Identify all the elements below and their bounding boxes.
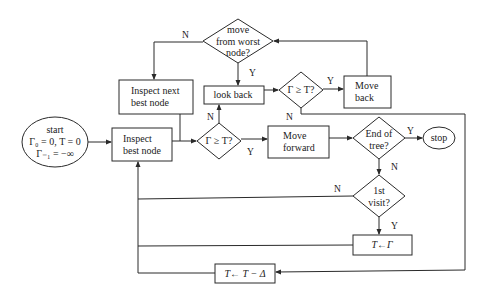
edge-move-back-to-move-from-worst [274, 41, 367, 76]
svg-text:node?: node? [226, 47, 250, 58]
edge-move-from-worst-to-inspect-next [154, 42, 203, 79]
node-inspect-next: Inspect next best node [119, 80, 193, 114]
node-start: start Γ₀ = 0, T = 0 Γ₋₁ = −∞ [22, 117, 88, 167]
svg-text:Move: Move [283, 130, 307, 141]
svg-text:from worst: from worst [216, 36, 260, 47]
svg-text:T←Γ: T←Γ [371, 239, 393, 250]
svg-text:Inspect: Inspect [123, 133, 152, 144]
node-stop: stop [423, 127, 455, 149]
node-move-forward: Move forward [268, 126, 329, 158]
edge-t-gets-gamma-to-inspect-best [138, 245, 353, 246]
node-move-back: Move back [344, 76, 391, 108]
label-check-mid-no: N [207, 112, 214, 122]
label-check-top-yes: Y [327, 76, 334, 86]
node-check-mid: Γ ≥ T? [197, 123, 241, 159]
svg-text:best node: best node [131, 97, 170, 108]
svg-text:forward: forward [283, 142, 315, 153]
label-check-mid-yes: Y [247, 147, 254, 157]
node-check-top: Γ ≥ T? [279, 72, 323, 108]
svg-text:Γ ≥ T?: Γ ≥ T? [288, 84, 315, 95]
node-t-gets-gamma: T←Γ [353, 235, 412, 255]
label-move-from-worst-yes: Y [249, 68, 256, 78]
label-move-from-worst-no: N [182, 30, 189, 40]
edge-t-minus-delta-to-inspect-best [138, 162, 215, 273]
svg-text:start: start [46, 124, 63, 135]
label-first-visit-yes: Y [391, 221, 398, 231]
node-t-minus-delta: T← T − Δ [215, 264, 275, 283]
svg-text:Γ₋₁ = −∞: Γ₋₁ = −∞ [36, 148, 74, 159]
label-end-of-tree-yes: Y [407, 126, 414, 136]
svg-text:Γ ≥ T?: Γ ≥ T? [206, 135, 233, 146]
svg-text:T← T − Δ: T← T − Δ [224, 268, 265, 279]
edge-first-visit-to-inspect-best [138, 196, 353, 199]
svg-text:Γ₀ = 0, T = 0: Γ₀ = 0, T = 0 [29, 136, 80, 147]
svg-text:Move: Move [355, 80, 379, 91]
svg-text:look back: look back [213, 89, 252, 100]
svg-text:1st: 1st [373, 185, 385, 196]
flowchart-canvas: N Y Y N N Y Y N N Y start Γ₀ = 0, T = 0 … [0, 0, 485, 297]
svg-text:visit?: visit? [368, 197, 390, 208]
node-look-back: look back [204, 86, 264, 104]
svg-text:stop: stop [431, 132, 448, 143]
node-inspect-best: Inspect best node [112, 128, 172, 161]
node-end-of-tree: End of tree? [353, 117, 405, 159]
svg-text:back: back [355, 92, 374, 103]
svg-text:End of: End of [366, 128, 394, 139]
label-check-top-no: N [286, 112, 293, 122]
svg-text:move: move [227, 24, 250, 35]
svg-text:tree?: tree? [369, 140, 389, 151]
node-first-visit: 1st visit? [353, 175, 405, 217]
svg-text:best node: best node [123, 145, 162, 156]
node-move-from-worst: move from worst node? [203, 19, 273, 63]
label-first-visit-no: N [334, 184, 341, 194]
svg-text:Inspect next: Inspect next [131, 85, 180, 96]
label-end-of-tree-no: N [391, 162, 398, 172]
